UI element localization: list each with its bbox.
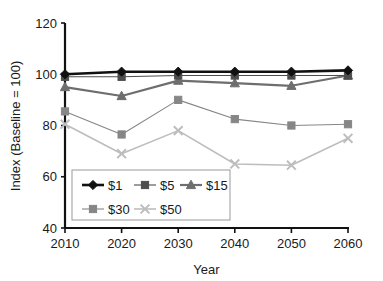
- x-tick-label: 2060: [334, 236, 363, 251]
- x-tick-label: 2020: [107, 236, 136, 251]
- data-point-marker: [344, 134, 353, 143]
- legend-swatch-marker: [141, 181, 148, 188]
- x-axis-title: Year: [193, 262, 220, 277]
- series-line: [65, 124, 348, 165]
- legend-label: $1: [108, 178, 122, 193]
- series-line: [65, 100, 348, 135]
- x-tick-label: 2010: [51, 236, 80, 251]
- x-tick-label: 2040: [220, 236, 249, 251]
- y-axis-title: Index (Baseline = 100): [8, 61, 23, 191]
- y-tick-label: 120: [35, 16, 57, 31]
- x-tick-label: 2030: [164, 236, 193, 251]
- legend-label: $30: [108, 202, 130, 217]
- line-chart-canvas: 406080100120201020202030204020502060Year…: [0, 0, 383, 281]
- y-tick-label: 40: [43, 221, 57, 236]
- data-point-marker: [61, 108, 68, 115]
- series-line: [65, 76, 348, 77]
- data-point-marker: [117, 149, 126, 158]
- y-tick-label: 100: [35, 67, 57, 82]
- data-point-marker: [344, 121, 351, 128]
- data-point-marker: [231, 115, 238, 122]
- x-tick-label: 2050: [277, 236, 306, 251]
- series-line: [65, 70, 348, 74]
- data-point-marker: [118, 131, 125, 138]
- chart-figure: 406080100120201020202030204020502060Year…: [0, 0, 383, 281]
- y-tick-label: 60: [43, 169, 57, 184]
- series-line: [65, 76, 348, 97]
- legend-label: $15: [206, 178, 228, 193]
- data-point-marker: [174, 126, 183, 135]
- legend-label: $5: [160, 178, 174, 193]
- legend-label: $50: [160, 202, 182, 217]
- y-tick-label: 80: [43, 118, 57, 133]
- data-point-marker: [175, 96, 182, 103]
- legend-swatch-marker: [89, 205, 96, 212]
- series-dollar-30: [61, 96, 351, 138]
- data-point-marker: [288, 122, 295, 129]
